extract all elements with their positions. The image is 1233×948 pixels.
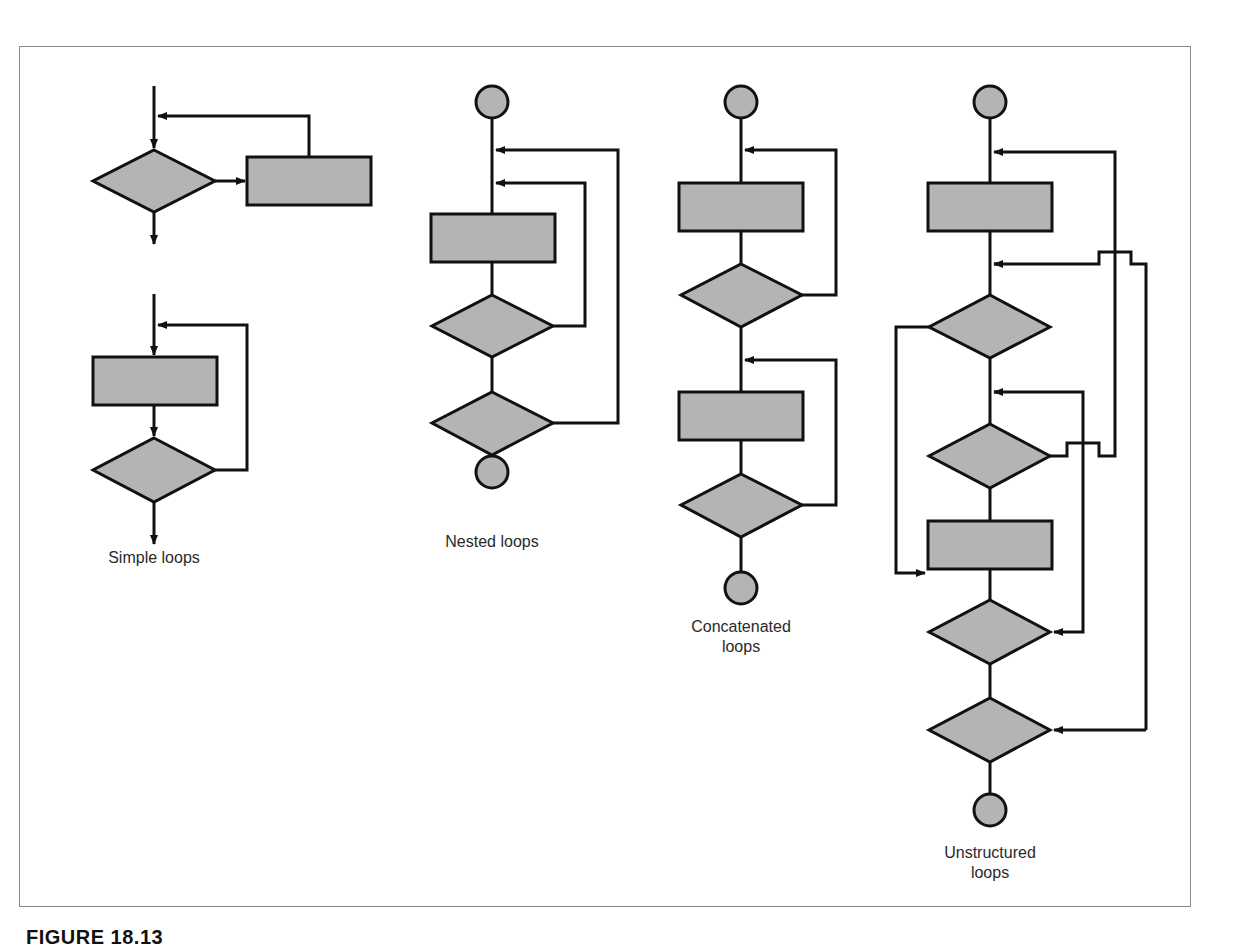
- process-box: [679, 183, 803, 231]
- simple-loop-2: [93, 294, 247, 544]
- loop-back-arrow: [158, 116, 309, 157]
- process-box: [679, 392, 803, 440]
- jump-forward-arrow: [896, 327, 929, 573]
- outer-loop-back-arrow: [496, 150, 618, 423]
- decision-diamond: [93, 150, 215, 212]
- start-node: [476, 86, 508, 118]
- simple-loop-1: [93, 86, 371, 244]
- decision-diamond: [929, 698, 1050, 762]
- decision-diamond: [681, 264, 802, 327]
- process-box: [247, 157, 371, 205]
- label-unstructured-line2: loops: [930, 863, 1050, 883]
- inner-decision-diamond: [432, 295, 553, 357]
- nested-loops: [431, 86, 618, 488]
- jump-forward-arrow: [994, 392, 1083, 632]
- decision-diamond: [681, 474, 802, 537]
- process-box: [928, 521, 1052, 569]
- decision-diamond: [929, 424, 1050, 488]
- figure-caption: FIGURE 18.13: [26, 926, 163, 948]
- decision-diamond: [929, 600, 1050, 664]
- end-node: [974, 794, 1006, 826]
- decision-diamond: [93, 438, 215, 502]
- label-simple-loops: Simple loops: [104, 548, 204, 568]
- label-unstructured-line1: Unstructured: [930, 843, 1050, 863]
- end-node: [725, 572, 757, 604]
- unstructured-loops: [896, 86, 1146, 826]
- end-node: [476, 456, 508, 488]
- start-node: [725, 86, 757, 118]
- start-node: [974, 86, 1006, 118]
- label-nested-loops: Nested loops: [437, 532, 547, 552]
- process-box: [928, 183, 1052, 231]
- process-box: [431, 214, 555, 262]
- decision-diamond: [929, 295, 1050, 358]
- outer-decision-diamond: [432, 392, 553, 455]
- process-box: [93, 357, 217, 405]
- concatenated-loops: [679, 86, 836, 604]
- label-concatenated-line2: loops: [681, 637, 801, 657]
- label-concatenated-line1: Concatenated: [681, 617, 801, 637]
